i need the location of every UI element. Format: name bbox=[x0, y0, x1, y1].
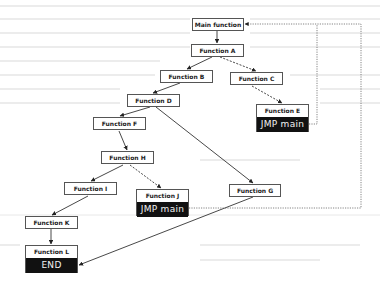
node-label: Function E bbox=[257, 105, 308, 117]
node-label: Function K bbox=[26, 217, 77, 229]
node-function-e[interactable]: Function E JMP main bbox=[256, 104, 309, 132]
node-function-l[interactable]: Function L END bbox=[25, 245, 78, 273]
node-label: Function A bbox=[192, 45, 243, 57]
node-function-k[interactable]: Function K bbox=[25, 216, 78, 229]
node-label: Function B bbox=[161, 71, 212, 83]
edge-e-to-main bbox=[309, 24, 317, 124]
node-function-b[interactable]: Function B bbox=[160, 70, 213, 83]
edges-layer bbox=[0, 0, 380, 283]
node-function-c[interactable]: Function C bbox=[230, 72, 283, 85]
node-sub-jmp-main: JMP main bbox=[137, 202, 188, 217]
node-function-f[interactable]: Function F bbox=[93, 117, 146, 130]
node-label: Function F bbox=[94, 118, 145, 130]
edge-f-to-h bbox=[119, 131, 127, 150]
edge-a-to-c bbox=[220, 57, 256, 71]
node-label: Function G bbox=[230, 185, 280, 197]
node-function-a[interactable]: Function A bbox=[191, 44, 244, 57]
node-main-function[interactable]: Main function bbox=[192, 18, 244, 31]
node-sub-end: END bbox=[26, 258, 77, 273]
node-label: Function I bbox=[65, 183, 116, 195]
node-function-i[interactable]: Function I bbox=[64, 182, 117, 195]
node-function-d[interactable]: Function D bbox=[127, 94, 180, 107]
node-sub-jmp-main: JMP main bbox=[257, 117, 308, 132]
edge-h-to-j bbox=[130, 165, 161, 188]
node-label: Main function bbox=[193, 19, 243, 31]
edge-d-to-f bbox=[120, 107, 150, 116]
node-label: Function D bbox=[128, 95, 179, 107]
edge-a-to-b bbox=[187, 57, 212, 69]
edge-c-to-e bbox=[252, 86, 282, 103]
node-function-j[interactable]: Function J JMP main bbox=[136, 189, 189, 216]
node-label: Function H bbox=[102, 152, 153, 164]
node-function-h[interactable]: Function H bbox=[101, 151, 154, 164]
node-label: Function L bbox=[26, 246, 77, 258]
edge-h-to-i bbox=[91, 165, 123, 181]
node-label: Function J bbox=[137, 190, 188, 202]
node-function-g[interactable]: Function G bbox=[229, 184, 281, 197]
edge-d-to-g bbox=[156, 107, 253, 183]
edge-i-to-k bbox=[52, 196, 88, 215]
edge-b-to-d bbox=[153, 83, 180, 93]
node-label: Function C bbox=[231, 73, 282, 85]
